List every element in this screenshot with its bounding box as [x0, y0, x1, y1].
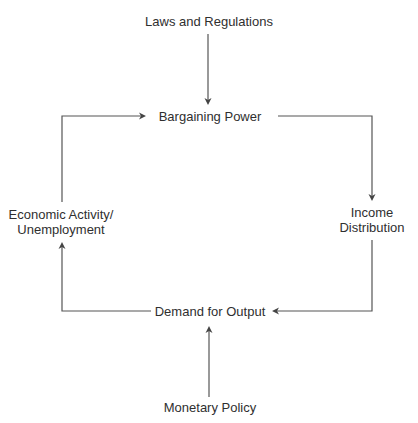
node-demand-for-output: Demand for Output	[150, 304, 270, 319]
edge-economic-to-bargaining	[62, 113, 146, 203]
node-label-line1: Income	[322, 205, 418, 220]
node-label: Laws and Regulations	[145, 14, 273, 29]
node-bargaining-power: Bargaining Power	[150, 109, 270, 124]
node-laws-and-regulations: Laws and Regulations	[0, 14, 418, 29]
edge-bargaining-to-income	[278, 116, 376, 201]
node-label-line2: Unemployment	[2, 222, 120, 237]
node-monetary-policy: Monetary Policy	[150, 400, 270, 415]
node-economic-activity-unemployment: Economic Activity/ Unemployment	[2, 207, 120, 237]
node-label: Monetary Policy	[164, 400, 256, 415]
node-label: Bargaining Power	[159, 109, 262, 124]
edge-monetary-to-demand	[206, 326, 213, 397]
node-income-distribution: Income Distribution	[322, 205, 418, 235]
node-label: Demand for Output	[155, 304, 266, 319]
edge-income-to-demand	[272, 240, 372, 315]
node-label-line2: Distribution	[322, 220, 418, 235]
edge-laws-to-bargaining	[205, 34, 212, 105]
edge-demand-to-economic	[59, 242, 152, 311]
node-label-line1: Economic Activity/	[2, 207, 120, 222]
